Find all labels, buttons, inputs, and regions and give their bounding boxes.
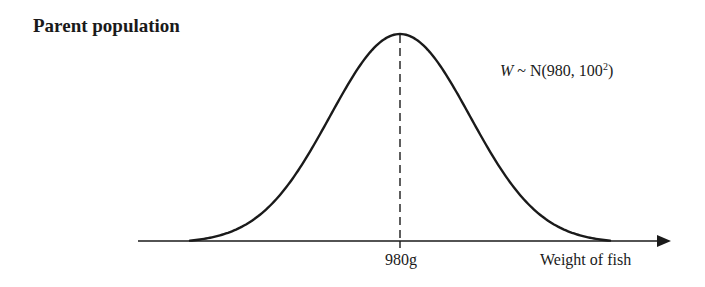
x-axis-label: Weight of fish	[540, 251, 631, 269]
mean-tick-label: 980g	[369, 251, 433, 269]
x-axis-arrowhead-icon	[657, 235, 671, 247]
normal-curve-plot	[0, 0, 705, 287]
